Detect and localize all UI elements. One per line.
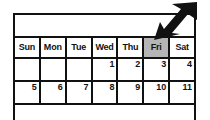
date-number: 10 [156, 82, 168, 92]
date-cell[interactable]: 11 [170, 82, 194, 103]
calendar-title-bar [15, 15, 194, 38]
weekday-header-tue[interactable]: Tue [67, 38, 93, 57]
weekday-header-sun[interactable]: Sun [15, 38, 41, 57]
date-number: 3 [161, 59, 168, 69]
weekday-label: Tue [71, 43, 86, 52]
date-number: 1 [109, 59, 116, 69]
calendar-grid: Sun Mon Tue Wed Thu Fri Sat [13, 13, 196, 120]
date-number: 6 [58, 82, 65, 92]
date-cell[interactable]: 4 [170, 59, 194, 80]
weekday-header-mon[interactable]: Mon [41, 38, 67, 57]
weekday-label: Sun [19, 43, 35, 52]
weekday-header-row: Sun Mon Tue Wed Thu Fri Sat [15, 38, 194, 59]
weekday-header-wed[interactable]: Wed [93, 38, 119, 57]
date-number: 5 [32, 82, 39, 92]
weekday-header-thu[interactable]: Thu [118, 38, 144, 57]
weekday-label: Wed [95, 43, 113, 52]
date-cell[interactable]: 10 [144, 82, 170, 103]
date-number [89, 59, 91, 60]
date-number: 9 [135, 82, 142, 92]
date-cell[interactable]: 1 [93, 59, 119, 80]
date-cell[interactable] [15, 59, 41, 80]
date-number [63, 59, 65, 60]
date-number: 4 [187, 59, 194, 69]
weekday-label: Sat [175, 43, 188, 52]
week-row: 1 2 3 4 [15, 59, 194, 82]
weekday-header-fri[interactable]: Fri [144, 38, 170, 57]
weekday-label: Mon [44, 43, 62, 52]
weekday-header-sat[interactable]: Sat [170, 38, 194, 57]
date-cell[interactable]: 8 [93, 82, 119, 103]
weekday-label: Thu [122, 43, 138, 52]
date-number: 8 [109, 82, 116, 92]
week-row: 5 6 7 8 9 10 11 [15, 82, 194, 105]
date-cell[interactable]: 5 [15, 82, 41, 103]
date-number [37, 59, 39, 60]
date-number: 7 [84, 82, 91, 92]
date-cell[interactable] [41, 59, 67, 80]
date-cell[interactable] [67, 59, 93, 80]
date-cell[interactable]: 3 [144, 59, 170, 80]
date-cell[interactable]: 7 [67, 82, 93, 103]
date-cell[interactable]: 9 [118, 82, 144, 103]
date-number: 11 [183, 82, 195, 92]
date-number: 2 [135, 59, 142, 69]
weekday-label: Fri [151, 43, 162, 52]
calendar-screenshot-root: Sun Mon Tue Wed Thu Fri Sat [0, 0, 210, 120]
date-cell[interactable]: 6 [41, 82, 67, 103]
date-cell[interactable]: 2 [118, 59, 144, 80]
